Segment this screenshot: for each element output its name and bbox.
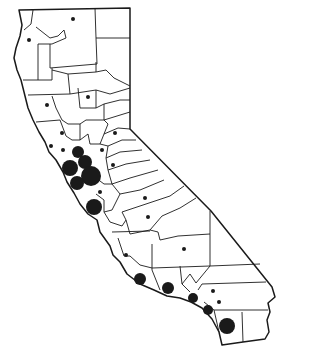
- map-canvas: [0, 0, 322, 356]
- state-outline: [14, 8, 275, 345]
- symbol-butte-area: [86, 95, 90, 99]
- symbol-kern-area: [182, 247, 186, 251]
- symbol-san-joaquin-area: [111, 163, 115, 167]
- symbol-san-bernardino: [217, 300, 221, 304]
- symbol-modoc-area: [71, 17, 75, 21]
- symbol-stanislaus-area: [98, 190, 102, 194]
- symbol-sacramento-area: [100, 148, 104, 152]
- symbol-mendocino-area: [45, 103, 49, 107]
- symbol-humboldt-area: [27, 38, 31, 42]
- symbol-san-luis-obispo: [124, 253, 128, 257]
- symbol-santa-cruz-monterey: [86, 199, 102, 215]
- symbol-los-angeles: [188, 293, 198, 303]
- symbol-orange: [203, 305, 213, 315]
- symbol-los-angeles-north: [211, 289, 215, 293]
- symbol-ventura: [162, 282, 174, 294]
- symbol-solano-area: [61, 148, 65, 152]
- symbol-mariposa-area: [143, 196, 147, 200]
- symbol-marin-area: [49, 144, 53, 148]
- symbol-san-diego: [219, 318, 235, 334]
- california-map: [0, 0, 322, 356]
- symbol-san-mateo: [70, 176, 84, 190]
- symbol-sonoma-area: [60, 131, 64, 135]
- symbol-placer-area: [113, 131, 117, 135]
- symbol-san-francisco: [62, 160, 78, 176]
- symbol-fresno-area: [146, 215, 150, 219]
- symbol-santa-barbara: [134, 273, 146, 285]
